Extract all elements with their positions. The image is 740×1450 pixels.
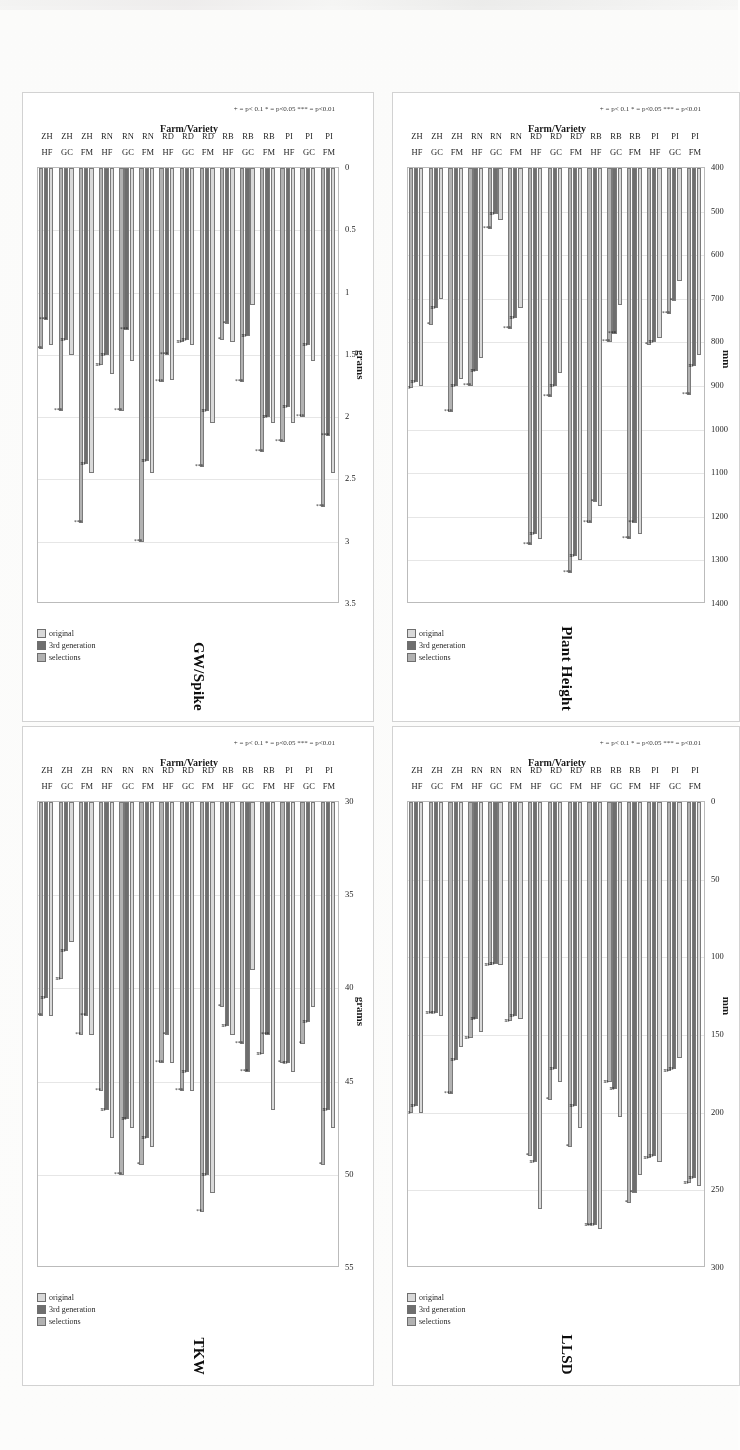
category-farm-label: PI (671, 131, 679, 141)
category-variety-label: GC (122, 781, 134, 791)
category-farm-label: RN (510, 131, 522, 141)
x-axis-unit-label: grams (355, 997, 367, 1026)
significance-marker: ns (141, 457, 146, 463)
significance-marker: *** (255, 448, 263, 454)
category-variety-label: FM (81, 781, 93, 791)
significance-marker: ** (95, 1087, 101, 1093)
significance-marker: *** (316, 503, 324, 509)
bar (89, 168, 93, 473)
bar (558, 802, 562, 1082)
bar (245, 168, 249, 336)
category-variety-label: GC (303, 781, 315, 791)
significance-marker: ** (196, 1208, 202, 1214)
significance-marker: ns (584, 1221, 589, 1227)
category-farm-label: PI (691, 131, 699, 141)
bar (49, 802, 53, 1016)
significance-marker: ns (242, 332, 247, 338)
significance-marker: *** (37, 1012, 42, 1018)
category-farm-label: ZH (62, 131, 73, 141)
bar (64, 168, 68, 340)
category-farm-label: RN (122, 131, 134, 141)
bar (190, 168, 194, 345)
x-tick-label: 45 (345, 1076, 354, 1086)
x-tick-label: 250 (711, 1184, 724, 1194)
bar (280, 802, 284, 1063)
significance-marker: *** (134, 538, 142, 544)
significance-marker: *** (175, 1087, 183, 1093)
bar (573, 168, 577, 556)
significance-marker: ns (465, 1034, 470, 1040)
category-variety-label: HF (102, 781, 113, 791)
bar (687, 168, 691, 395)
significance-marker: *** (563, 569, 571, 575)
bar (493, 168, 497, 214)
x-tick-label: 800 (711, 336, 724, 346)
category-farm-label: RB (223, 765, 234, 775)
bar (185, 802, 189, 1072)
category-variety-label: FM (262, 781, 274, 791)
bar (84, 802, 88, 1016)
significance-marker: * (318, 1161, 321, 1167)
legend-swatch-icon (37, 653, 46, 662)
bar (498, 168, 502, 220)
bar (448, 802, 452, 1094)
bar (250, 168, 254, 305)
category-variety-label: GC (431, 781, 443, 791)
bar (326, 802, 330, 1110)
gridline (408, 1190, 704, 1191)
significance-marker: ns (470, 367, 475, 373)
bar (488, 168, 492, 229)
bar (638, 802, 642, 1175)
legend-label: selections (419, 653, 451, 662)
bar (553, 168, 557, 386)
bar (429, 168, 433, 325)
category-farm-label: RB (243, 131, 254, 141)
significance-marker: * (218, 1003, 221, 1009)
chart-plant_height: Plant Heightns*******ns****************n… (392, 92, 740, 722)
significance-marker: ns (182, 336, 187, 342)
legend-swatch-icon (37, 1305, 46, 1314)
category-farm-label: RB (590, 765, 601, 775)
category-farm-label: RN (510, 765, 522, 775)
significance-marker: ns (141, 1134, 146, 1140)
category-variety-label: FM (689, 147, 701, 157)
significance-marker: * (298, 1040, 301, 1046)
significance-marker: ns (510, 314, 515, 320)
legend-item: selections (37, 1317, 95, 1326)
x-axis-unit-label: grams (355, 350, 367, 379)
significance-marker: * (590, 498, 593, 504)
bar (558, 168, 562, 373)
category-variety-label: GC (491, 147, 503, 157)
x-tick-label: 1300 (711, 554, 728, 564)
legend-item: 3rd generation (37, 641, 95, 650)
x-tick-label: 700 (711, 293, 724, 303)
category-farm-label: PI (691, 765, 699, 775)
category-variety-label: HF (590, 781, 601, 791)
chart-panel-llsd: LLSDnsnsnsnsnsns**nsnsnsnsns*ns*ns*nsnsn… (392, 726, 740, 1386)
bar (409, 802, 413, 1113)
category-variety-label: GC (669, 147, 681, 157)
bar (300, 168, 304, 417)
bar (533, 802, 537, 1162)
category-farm-label: ZH (431, 131, 442, 141)
category-variety-label: HF (42, 781, 53, 791)
x-tick-label: 400 (711, 162, 724, 172)
bar (697, 802, 701, 1186)
bar (493, 802, 497, 964)
chart-title: TKW (190, 1337, 207, 1375)
bar (311, 168, 315, 361)
category-variety-label: GC (669, 781, 681, 791)
significance-marker: * (645, 341, 648, 347)
x-tick-label: 30 (345, 796, 354, 806)
bar (454, 802, 458, 1060)
category-farm-label: PI (305, 765, 313, 775)
bar (593, 168, 597, 502)
category-variety-label: HF (412, 781, 423, 791)
bar (64, 802, 68, 951)
significance-marker: ns (302, 1018, 307, 1024)
bar (230, 168, 234, 342)
bar (265, 802, 269, 1035)
category-variety-label: HF (650, 781, 661, 791)
category-farm-label: RB (263, 131, 274, 141)
